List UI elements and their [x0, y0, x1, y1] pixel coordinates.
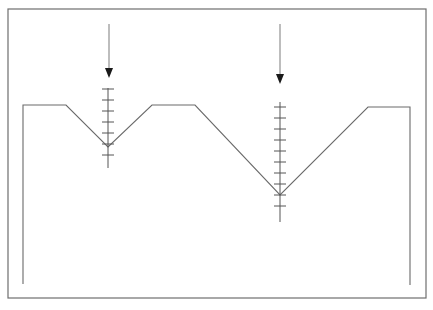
arrow-head — [276, 74, 284, 84]
arrow-head — [105, 68, 113, 78]
measurement-scale-1 — [102, 88, 114, 168]
arrow-down-icon — [105, 24, 113, 78]
measurement-scale-2 — [274, 102, 286, 222]
notch-profile-diagram — [0, 0, 433, 310]
notch-1-group — [102, 24, 114, 168]
notched-profile-line — [23, 105, 410, 285]
diagram-canvas: Profile with two V-shaped notches, each … — [0, 0, 433, 310]
arrow-down-icon — [276, 24, 284, 84]
notch-2-group — [274, 24, 286, 222]
diagram-frame — [8, 9, 426, 298]
